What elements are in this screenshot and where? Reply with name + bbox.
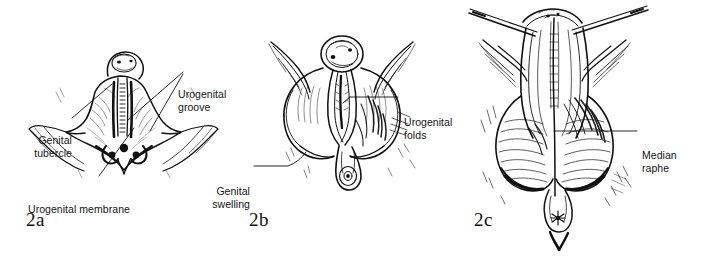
anatomy-figure: Genital tubercle Urogenital groove Uroge… <box>0 0 714 260</box>
label-median-raphe: Median raphe <box>642 124 677 199</box>
label-urogenital-groove: Urogenital groove <box>178 63 226 138</box>
leader-genital-tubercle <box>72 84 112 118</box>
label-genital-swelling-line1: Genital swelling <box>188 185 250 210</box>
label-genital-tubercle-line1: Genital tubercle <box>14 134 72 159</box>
label-genital-tubercle: Genital tubercle <box>14 109 72 184</box>
leader-genital-swelling <box>254 152 306 166</box>
label-urogenital-groove-line1: Urogenital groove <box>178 88 226 113</box>
figure-number-2a: 2a <box>26 209 45 231</box>
figure-number-2c: 2c <box>474 209 493 231</box>
label-genital-swelling: Genital swelling <box>188 160 250 235</box>
label-urogenital-folds: Urogenital folds <box>404 91 452 166</box>
label-median-raphe-line1: Median raphe <box>642 149 677 174</box>
label-urogenital-folds-line1: Urogenital folds <box>404 116 452 141</box>
figure-number-2b: 2b <box>249 209 269 231</box>
panel-2c: Median raphe 2c <box>465 0 714 260</box>
leader-urogenital-groove-a <box>128 72 183 120</box>
panel-2b: Urogenital folds Genital swelling 2b <box>240 0 465 260</box>
